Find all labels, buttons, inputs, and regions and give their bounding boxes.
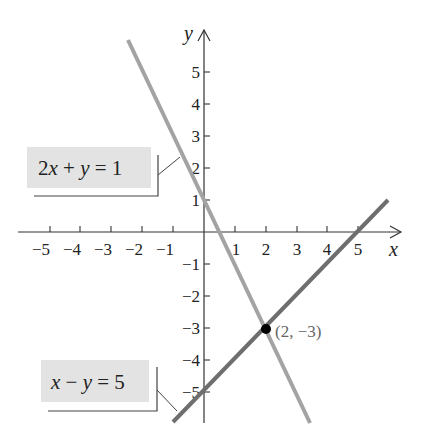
y-tick-label: 1 <box>192 191 201 210</box>
y-tick-label: −3 <box>182 319 200 338</box>
x-axis-label: x <box>388 238 398 260</box>
equation-label: x − y = 5 <box>50 370 125 394</box>
y-tick-label: 5 <box>192 63 201 82</box>
callout-eq1: 2x + y = 1 <box>27 147 180 196</box>
y-tick-label: −1 <box>182 255 200 274</box>
x-tick-label: 2 <box>262 240 271 259</box>
x-tick-label: 5 <box>354 240 363 259</box>
x-tick-label: 4 <box>323 240 332 259</box>
x-tick-label: −2 <box>125 240 143 259</box>
x-tick-label: 3 <box>293 240 302 259</box>
x-tick-label: −1 <box>156 240 174 259</box>
y-tick-label: −4 <box>182 351 201 370</box>
callout-leader-line <box>157 390 177 411</box>
intersection-point <box>261 324 271 334</box>
line-x-minus-y-eq-5 <box>173 200 388 422</box>
y-tick-label: 3 <box>192 127 201 146</box>
y-tick-label: 4 <box>192 95 201 114</box>
y-axis-label: y <box>182 22 193 45</box>
x-axis <box>18 226 401 238</box>
x-tick-label: −3 <box>94 240 112 259</box>
y-tick-label: −2 <box>182 287 200 306</box>
intersection-label: (2, −3) <box>275 322 321 341</box>
x-tick-label: −5 <box>32 240 50 259</box>
chart-canvas: 2x + y = 1 x − y = 5 −5 −4 −3 −2 −1 1 2 <box>0 0 431 445</box>
callout-leader-line <box>158 157 180 175</box>
equation-label: 2x + y = 1 <box>38 156 122 180</box>
x-tick-label: −4 <box>63 240 82 259</box>
x-tick-label: 1 <box>232 240 241 259</box>
callout-eq2: x − y = 5 <box>41 360 177 411</box>
